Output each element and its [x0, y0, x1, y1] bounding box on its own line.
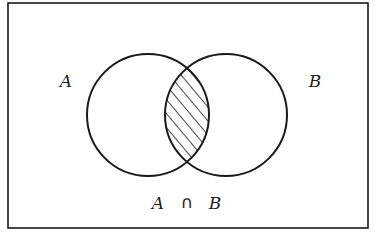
set-b-label: B [308, 71, 322, 91]
caption-left-set: A [150, 193, 164, 213]
venn-diagram: A B A ∩ B [0, 0, 376, 234]
intersection-caption: A ∩ B [150, 192, 221, 213]
caption-right-set: B [208, 193, 222, 213]
set-a-label: A [58, 71, 72, 91]
intersection-operator-icon: ∩ [181, 192, 193, 212]
